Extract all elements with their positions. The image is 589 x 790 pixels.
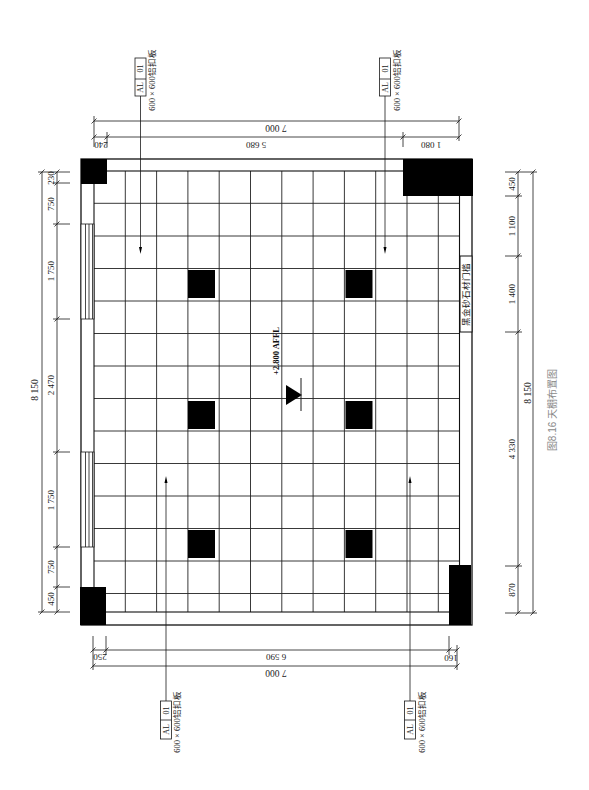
figure-caption: 图8.16 天棚布置图	[546, 369, 558, 451]
window-upper	[81, 224, 94, 319]
dim-left-segment: 450	[46, 592, 56, 606]
dim-left-segment: 750	[46, 197, 56, 211]
tag-description: 600 × 600铝扣板	[417, 691, 427, 753]
light-fixture	[188, 530, 215, 558]
ceiling-plan-drawing: 黑金砂石材门槛 +2.800 AFFL 01 AL 600 × 600铝扣板 0…	[0, 0, 589, 790]
dim-right-segment: 870	[507, 583, 517, 597]
material-tag-bottom-right: 01 AL 600 × 600铝扣板	[405, 476, 428, 753]
wall-outline	[81, 159, 472, 625]
material-tag-top-right: 01 AL 600 × 600铝扣板	[380, 49, 403, 254]
light-fixture	[188, 270, 215, 298]
window-lower	[81, 452, 94, 547]
tag-code: AL	[136, 82, 145, 93]
dim-right-segment: 4 330	[507, 438, 517, 459]
dim-bottom-segment: 160	[444, 653, 458, 663]
tag-number: 01	[136, 65, 145, 73]
dim-left-segment: 1 750	[46, 260, 56, 281]
dim-left-segment: 1 750	[46, 489, 56, 510]
column-bottom-left	[80, 587, 106, 625]
dim-right-segment: 450	[507, 177, 517, 191]
material-tag-bottom-left: 01 AL 600 × 600铝扣板	[161, 476, 183, 753]
tag-code: AL	[162, 724, 171, 735]
light-fixture	[346, 530, 373, 558]
threshold-label: 黑金砂石材门槛	[461, 263, 471, 326]
dimension-left: 8 150 230 750 1 750 2 470 1 750 750 450	[30, 171, 56, 606]
material-tag-top-left: 01 AL 600 × 600铝扣板	[135, 49, 157, 254]
dim-bottom-segment: 250	[93, 652, 107, 662]
tag-description: 600 × 600铝扣板	[172, 691, 182, 753]
light-fixture	[346, 401, 373, 429]
dim-bottom-total: 7 000	[265, 668, 287, 678]
tag-code: AL	[406, 724, 415, 735]
light-fixture	[346, 270, 373, 298]
dim-right-segment: 1 400	[507, 283, 517, 304]
light-fixture	[188, 401, 215, 429]
column-bottom-right	[449, 565, 471, 625]
dim-top-segment: 1 080	[420, 140, 441, 150]
dim-left-segment: 230	[46, 171, 56, 185]
dim-top-segment: 5 680	[245, 140, 266, 150]
leader-arrow-icon	[409, 476, 412, 483]
elevation-label: +2.800 AFFL	[271, 327, 281, 375]
dimension-right: 450 1 100 1 400 4 330 870 8 150	[507, 177, 533, 597]
tag-description: 600 × 600铝扣板	[147, 49, 157, 111]
ceiling-boundary	[94, 171, 460, 612]
dimension-top: 7 000 240 5 680 1 080	[94, 123, 441, 150]
dim-bottom-segment: 6 590	[265, 652, 286, 662]
elevation-triangle-icon	[286, 385, 302, 405]
dim-left-segment: 2 470	[46, 374, 56, 395]
threshold-tag: 黑金砂石材门槛	[460, 256, 472, 332]
tag-description: 600 × 600铝扣板	[392, 49, 402, 111]
ceiling-grid	[94, 171, 460, 612]
dim-left-total: 8 150	[30, 379, 40, 401]
column-top-left	[81, 159, 107, 184]
leader-arrow-icon	[384, 247, 387, 254]
dim-right-total: 8 150	[523, 382, 533, 404]
leader-arrow-icon	[165, 476, 168, 483]
column-top-right	[403, 159, 473, 196]
tag-code: AL	[381, 82, 390, 93]
dim-left-segment: 750	[46, 560, 56, 574]
leader-arrow-icon	[139, 247, 142, 254]
dim-right-segment: 1 100	[507, 215, 517, 236]
tag-number: 01	[162, 707, 171, 715]
dim-top-total: 7 000	[265, 123, 287, 133]
dim-top-segment: 240	[94, 140, 108, 150]
tag-number: 01	[381, 65, 390, 73]
dimension-bottom: 250 6 590 160 7 000	[93, 652, 458, 678]
tag-number: 01	[406, 707, 415, 715]
